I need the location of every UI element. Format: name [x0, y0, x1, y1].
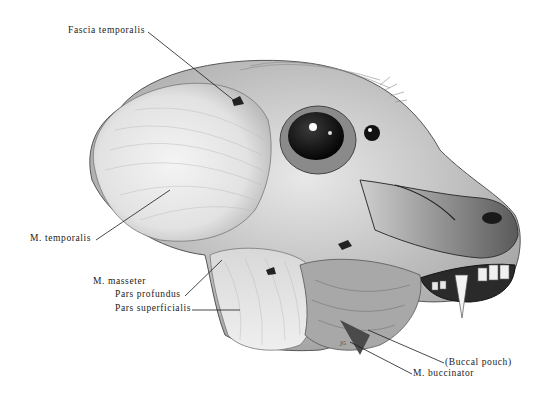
label-m-masseter: M. masseter [93, 276, 146, 286]
label-m-buccinator: M. buccinator [413, 368, 474, 378]
label-pars-superficialis: Pars superficialis [115, 303, 191, 313]
artist-signature: JG [339, 340, 346, 347]
anatomical-illustration: JG Fascia temporalis M. temporalis M. ma… [0, 0, 554, 406]
label-fascia-temporalis: Fascia temporalis [68, 25, 145, 35]
label-pars-profundus: Pars profundus [115, 289, 181, 299]
temporalis-muscle [93, 83, 271, 241]
illustration-svg: JG [0, 0, 554, 406]
label-buccal-pouch: (Buccal pouch) [445, 357, 512, 367]
label-m-temporalis: M. temporalis [30, 233, 91, 243]
buccinator-muscle [300, 259, 421, 355]
leader-buccal-pouch [368, 330, 444, 363]
leader-m-buccinator [350, 342, 412, 374]
